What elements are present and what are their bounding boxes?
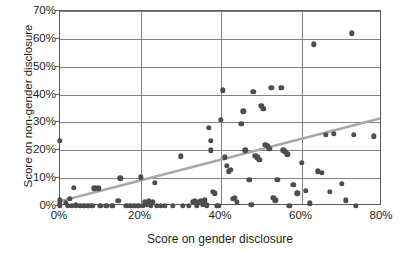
y-axis-tick-label: 10% — [12, 171, 56, 183]
x-axis-tick-label: 0% — [37, 209, 81, 221]
trendline — [60, 11, 380, 204]
y-axis-tick-label: 40% — [12, 88, 56, 100]
y-axis-tick-label: 30% — [12, 115, 56, 127]
y-axis-tick-label: 20% — [12, 143, 56, 155]
x-axis-tick-label: 40% — [198, 209, 242, 221]
y-axis-tick-label: 70% — [12, 4, 56, 16]
scatter-chart: Score on non-gender disclosure 0%10%20%3… — [0, 0, 402, 255]
x-axis-tick-label: 60% — [279, 209, 323, 221]
y-axis-tick-label: 60% — [12, 32, 56, 44]
x-axis-tick-label: 80% — [359, 209, 402, 221]
x-axis-tick-label: 20% — [118, 209, 162, 221]
y-axis-tick-label: 50% — [12, 60, 56, 72]
x-axis-title: Score on gender disclosure — [59, 232, 381, 246]
plot-area — [59, 10, 381, 205]
